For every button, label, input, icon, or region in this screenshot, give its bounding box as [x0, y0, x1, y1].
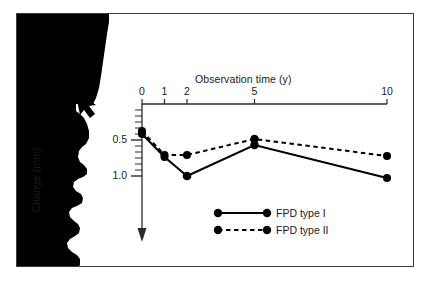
x-tick-label-1: 1	[153, 85, 177, 97]
y-tick-label-0-5: 0.5	[101, 133, 127, 145]
series-line-fpd-type-1	[142, 134, 387, 178]
series-line-fpd-type-2	[142, 131, 387, 156]
legend-swatch-fpd-type-2	[214, 226, 271, 234]
legend-label-fpd-type-2: FPD type II	[276, 224, 329, 236]
x-axis-ticks	[142, 99, 387, 104]
y-tick-label-1-0: 1.0	[101, 169, 127, 181]
x-tick-label-0: 0	[130, 85, 154, 97]
y-axis-label: Change (mm)	[30, 140, 42, 220]
line-chart	[17, 14, 414, 267]
x-tick-label-10: 10	[375, 85, 399, 97]
x-tick-label-2: 2	[175, 85, 199, 97]
legend-swatch-fpd-type-1	[214, 209, 271, 217]
legend-label-fpd-type-1: FPD type I	[276, 207, 326, 219]
figure-frame: Observation time (y) Change (mm) 0 1 2 5…	[16, 13, 414, 267]
x-tick-label-5: 5	[243, 85, 267, 97]
figure-root: Observation time (y) Change (mm) 0 1 2 5…	[0, 0, 432, 282]
y-axis-arrowhead	[138, 228, 147, 242]
chart-title: Observation time (y)	[195, 73, 292, 85]
